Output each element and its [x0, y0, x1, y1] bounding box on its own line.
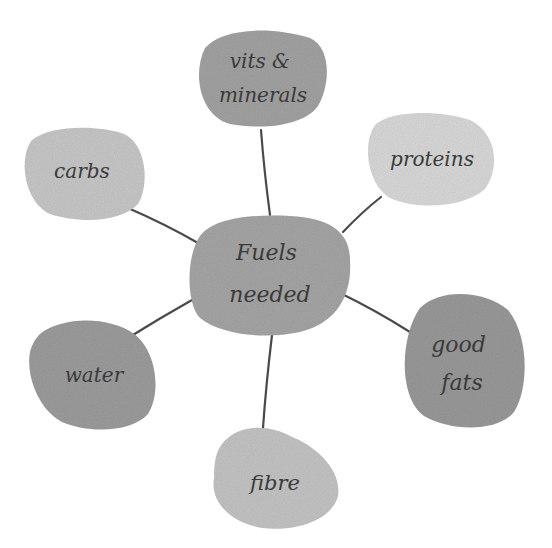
- fibre-label: fibre: [248, 471, 300, 495]
- carbs-label: carbs: [54, 159, 110, 183]
- node-good-fats: good fats: [405, 294, 525, 428]
- center-blob: [190, 216, 351, 336]
- water-label: water: [65, 363, 125, 387]
- connector-carbs: [128, 208, 198, 243]
- good-fats-blob: [405, 294, 525, 428]
- node-carbs: carbs: [25, 128, 145, 220]
- center-node-fuels-needed: Fuels needed: [190, 216, 351, 336]
- node-fibre: fibre: [213, 428, 338, 529]
- node-water: water: [29, 321, 155, 430]
- proteins-label: proteins: [390, 147, 474, 171]
- connector-water: [128, 300, 192, 338]
- vits-minerals-blob: [199, 31, 327, 127]
- node-vits-minerals: vits & minerals: [199, 31, 327, 127]
- connector-proteins: [343, 197, 381, 232]
- connector-vits-minerals: [261, 130, 270, 215]
- mind-map-diagram: Fuels needed vits & minerals proteins go…: [0, 0, 552, 548]
- node-proteins: proteins: [368, 113, 494, 206]
- connector-good-fats: [342, 294, 410, 332]
- connector-fibre: [263, 335, 272, 428]
